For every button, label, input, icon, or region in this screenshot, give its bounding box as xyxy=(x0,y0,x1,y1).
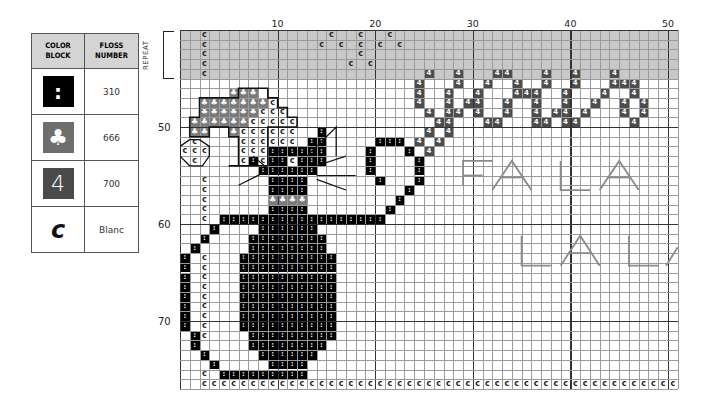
letter-c-icon: c xyxy=(51,216,65,244)
column-number-label: 30 xyxy=(467,18,479,29)
letter-A xyxy=(600,161,639,190)
legend-header-color-block: COLORBLOCK xyxy=(32,34,85,69)
floss-number: Blanc xyxy=(85,207,139,253)
column-number-label: 20 xyxy=(369,18,381,29)
floss-number: 700 xyxy=(85,161,139,207)
ear-outline xyxy=(307,127,336,156)
letter-A xyxy=(561,236,600,266)
floss-number: 666 xyxy=(85,115,139,161)
row-number-label: 50 xyxy=(158,122,171,133)
letter-F xyxy=(463,161,492,185)
letter-L xyxy=(522,236,551,266)
letter-A-partial xyxy=(666,247,678,265)
grid-line xyxy=(678,30,679,389)
letter-L xyxy=(629,236,658,266)
legend-row-666: ♣ 666 xyxy=(32,115,139,161)
legend-row-700: 4 700 xyxy=(32,161,139,207)
pompom-outline xyxy=(180,140,209,166)
two-dots-icon: : xyxy=(43,76,74,107)
legend-row-310: : 310 xyxy=(32,69,139,115)
legend-header-floss-number: FLOSSNUMBER xyxy=(85,34,139,69)
floss-legend-table: COLORBLOCK FLOSSNUMBER : 310 ♣ 666 4 700… xyxy=(31,33,139,253)
column-number-label: 40 xyxy=(564,18,576,29)
floss-number: 310 xyxy=(85,69,139,115)
repeat-label: REPEAT xyxy=(142,33,154,77)
whisker xyxy=(317,156,346,166)
row-number-label: 60 xyxy=(158,219,171,230)
repeat-bracket xyxy=(163,31,174,79)
grid-line xyxy=(180,389,678,390)
whisker xyxy=(239,171,268,186)
letter-L xyxy=(561,161,590,190)
whisker xyxy=(317,179,346,190)
hat-outline xyxy=(190,88,297,166)
letter-A xyxy=(492,161,531,190)
column-number-label: 10 xyxy=(272,18,284,29)
shamrock-icon: ♣ xyxy=(43,122,74,153)
backstitch-overlay xyxy=(180,30,678,389)
whisker xyxy=(253,156,268,169)
four-icon: 4 xyxy=(43,168,74,199)
legend-row-blanc: c Blanc xyxy=(32,207,139,253)
cross-stitch-chart-grid: cccccccccccccccc4444444444444444♣♣♣44444… xyxy=(180,30,678,389)
row-number-label: 70 xyxy=(158,316,171,327)
column-number-label: 50 xyxy=(662,18,674,29)
